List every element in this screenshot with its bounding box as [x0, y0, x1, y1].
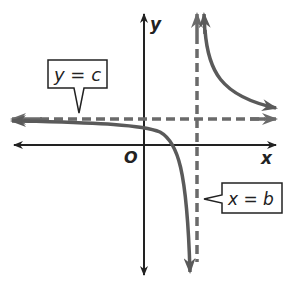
curve-left-branch — [24, 121, 190, 272]
origin-label: O — [124, 148, 138, 167]
horizontal-asymptote-label: y = c — [53, 64, 101, 85]
graph: y x O y = c x = b — [0, 0, 301, 283]
vertical-asymptote-label: x = b — [227, 189, 274, 209]
curve-right-branch — [205, 30, 276, 108]
y-axis-label: y — [150, 14, 162, 34]
horizontal-asymptote-callout: y = c — [48, 60, 107, 113]
vertical-asymptote-callout: x = b — [204, 183, 282, 213]
x-axis-label: x — [260, 148, 273, 168]
